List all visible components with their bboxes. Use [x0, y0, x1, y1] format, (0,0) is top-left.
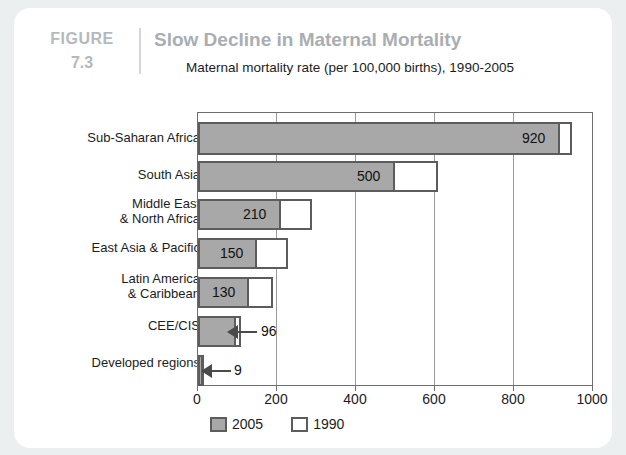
legend-label-2005: 2005: [232, 416, 263, 432]
category-label-line1: Middle East: [120, 196, 200, 211]
category-label-line1: Latin America: [121, 271, 200, 286]
arrow-line: [237, 331, 257, 333]
tick-label-200: 200: [264, 391, 287, 407]
category-label-line1: South Asia: [138, 167, 200, 182]
tick-label-1000: 1000: [576, 391, 607, 407]
category-label-line2: & Caribbean: [121, 286, 200, 301]
figure-card: FIGURE 7.3 Slow Decline in Maternal Mort…: [14, 8, 612, 448]
category-label-line2: & North Africa: [120, 211, 200, 226]
chart-legend: 2005 1990: [210, 416, 372, 432]
category-label-0: Sub-Saharan Africa: [87, 130, 200, 145]
value-label-6: 9: [234, 362, 242, 378]
bar-2005-0: [198, 122, 560, 155]
category-label-line1: Sub-Saharan Africa: [87, 130, 200, 145]
legend-label-1990: 1990: [313, 416, 344, 432]
category-label-line1: Developed regions: [92, 355, 200, 370]
tick-label-400: 400: [343, 391, 366, 407]
plot-area: 920 500 210 150: [197, 112, 593, 386]
arrow-line: [211, 370, 231, 372]
category-label-3: East Asia & Pacific: [92, 240, 200, 255]
category-label-1: South Asia: [138, 167, 200, 182]
category-label-line1: East Asia & Pacific: [92, 240, 200, 255]
category-label-6: Developed regions: [92, 355, 200, 370]
value-label-1: 500: [357, 168, 380, 184]
bar-2005-2: [198, 199, 281, 230]
value-label-3: 150: [220, 245, 243, 261]
legend-item-1990: 1990: [291, 416, 344, 432]
legend-swatch-1990: [291, 417, 308, 432]
category-label-line1: CEE/CIS: [148, 318, 200, 333]
value-label-4: 130: [212, 284, 235, 300]
legend-swatch-2005: [210, 417, 227, 432]
category-label-2: Middle East & North Africa: [120, 196, 200, 226]
value-label-2: 210: [243, 206, 266, 222]
tick-label-0: 0: [193, 391, 201, 407]
tick-label-800: 800: [501, 391, 524, 407]
category-label-5: CEE/CIS: [148, 318, 200, 333]
legend-item-2005: 2005: [210, 416, 263, 432]
value-label-0: 920: [522, 130, 545, 146]
value-label-5: 96: [261, 323, 277, 339]
category-label-4: Latin America & Caribbean: [121, 271, 200, 301]
chart-area: Sub-Saharan Africa South Asia Middle Eas…: [14, 8, 612, 448]
tick-label-600: 600: [422, 391, 445, 407]
